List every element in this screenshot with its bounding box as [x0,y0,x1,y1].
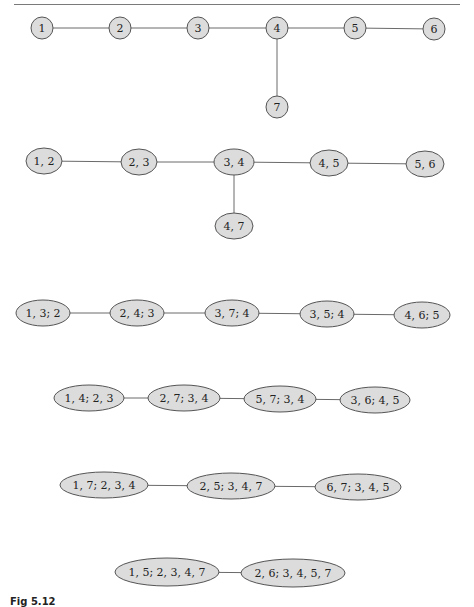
node-label: 2, 7; 3, 4 [159,392,208,405]
tree-node: 2, 5; 3, 4, 7 [187,473,275,499]
tree-node: 2, 7; 3, 4 [148,385,220,411]
tree-node: 3, 7; 4 [205,300,259,326]
node-label: 6 [431,23,438,36]
tree-node: 4 [266,17,288,39]
node-label: 5 [352,22,359,35]
node-label: 2, 6; 3, 4, 5, 7 [254,567,331,580]
tree-node: 4, 5 [310,150,348,176]
original-tree: 1234567 [31,17,445,118]
tree-node: 6 [423,18,445,40]
tree-node: 7 [266,96,288,118]
level-4: 1, 7; 2, 3, 42, 5; 3, 4, 76, 7; 3, 4, 5 [60,472,401,500]
node-label: 5, 6 [415,158,436,171]
tree-node: 5, 7; 3, 4 [244,386,316,412]
node-label: 1, 7; 2, 3, 4 [72,479,135,492]
node-label: 2, 4; 3 [119,307,154,320]
node-label: 3, 5; 4 [309,308,344,321]
level-2: 1, 3; 22, 4; 33, 7; 43, 5; 44, 6; 5 [16,300,450,328]
node-label: 7 [274,101,281,114]
tree-node: 1, 4; 2, 3 [54,385,124,411]
node-label: 3, 4 [224,156,245,169]
node-label: 5, 7; 3, 4 [255,393,304,406]
tree-node: 6, 7; 3, 4, 5 [315,474,401,500]
node-label: 4, 7 [224,220,245,233]
node-label: 4, 5 [319,157,340,170]
node-label: 1, 3; 2 [25,307,60,320]
figure-caption: Fig 5.12 [10,597,56,607]
node-label: 1, 4; 2, 3 [64,392,113,405]
tree-node: 3, 6; 4, 5 [340,387,410,413]
node-label: 1 [39,22,46,35]
node-label: 2 [117,22,124,35]
tree-node: 2 [109,17,131,39]
tree-node: 2, 3 [121,149,157,175]
node-label: 3, 6; 4, 5 [350,394,399,407]
tree-node: 1 [31,17,53,39]
tree-node: 2, 6; 3, 4, 5, 7 [241,559,345,587]
node-label: 4, 6; 5 [404,309,439,322]
tree-node: 1, 2 [26,148,62,174]
tree-node: 2, 4; 3 [110,300,164,326]
tree-node: 1, 3; 2 [16,300,70,326]
tree-node: 4, 6; 5 [394,302,450,328]
nodes-layer: 12345671, 22, 33, 44, 55, 64, 71, 3; 22,… [16,17,450,587]
node-label: 2, 5; 3, 4, 7 [199,480,262,493]
tree-node: 3, 4 [214,149,254,175]
tree-node: 3, 5; 4 [300,301,354,327]
node-label: 4 [274,22,281,35]
node-label: 6, 7; 3, 4, 5 [326,481,389,494]
node-label: 3 [195,22,202,35]
tree-node: 3 [187,17,209,39]
tree-node: 1, 5; 2, 3, 4, 7 [115,558,219,586]
tree-edge [355,28,434,29]
tree-node: 4, 7 [215,213,253,239]
tree-node: 1, 7; 2, 3, 4 [60,472,148,498]
node-label: 3, 7; 4 [214,307,249,320]
node-label: 1, 5; 2, 3, 4, 7 [128,566,205,579]
tree-node: 5 [344,17,366,39]
tree-node: 5, 6 [406,151,444,177]
node-label: 1, 2 [34,155,55,168]
node-label: 2, 3 [129,156,150,169]
